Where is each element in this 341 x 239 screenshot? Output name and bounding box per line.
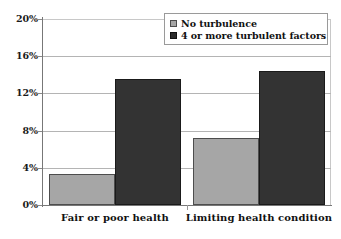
x-axis-category-label: Limiting health condition [186, 212, 332, 223]
y-axis-tick-label: 8% [2, 126, 38, 136]
bar [259, 71, 325, 205]
plot-area [43, 19, 331, 205]
y-axis-tick-label: 4% [2, 163, 38, 173]
y-axis-tick-group: 16% [0, 51, 38, 61]
y-axis-tick-group: 20% [0, 14, 38, 24]
y-axis-tick-label: 12% [2, 88, 38, 98]
dark-gray-swatch-icon [170, 32, 177, 39]
x-axis-category-separator [187, 205, 188, 210]
y-axis-tick-label: 20% [2, 14, 38, 24]
y-axis-tick-label: 16% [2, 51, 38, 61]
bar-chart: 20% 16% 12% 8% 4% 0% Fair or poor health… [0, 0, 341, 239]
y-axis-tick-label: 0% [2, 200, 38, 210]
bar [193, 138, 259, 205]
legend-item-label: 4 or more turbulent factors [181, 30, 326, 41]
y-axis-tick-group: 12% [0, 88, 38, 98]
y-axis-tick-group: 0% [0, 200, 38, 210]
light-gray-swatch-icon [170, 20, 177, 27]
y-axis-tick-group: 8% [0, 126, 38, 136]
gridline [43, 56, 331, 57]
legend-item-four-or-more-turbulent-factors: 4 or more turbulent factors [170, 29, 323, 41]
x-axis-category-label: Fair or poor health [61, 212, 169, 223]
legend-item-label: No turbulence [181, 18, 257, 29]
chart-legend: No turbulence 4 or more turbulent factor… [164, 13, 328, 45]
bar [49, 174, 115, 205]
legend-item-no-turbulence: No turbulence [170, 17, 323, 29]
bar [115, 79, 181, 205]
y-axis-tick-group: 4% [0, 163, 38, 173]
